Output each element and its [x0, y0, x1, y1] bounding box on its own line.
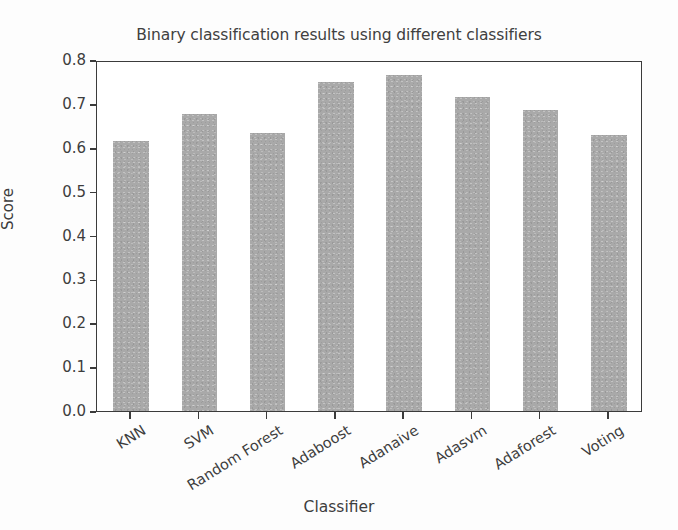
bars-layer — [97, 62, 641, 411]
bar — [318, 82, 353, 411]
x-tick-mark — [129, 412, 131, 419]
y-tick-mark — [90, 148, 96, 150]
y-tick-mark — [90, 367, 96, 369]
y-tick-label: 0.5 — [50, 183, 86, 201]
y-tick-mark — [90, 323, 96, 325]
y-tick-mark — [90, 60, 96, 62]
y-tick-label: 0.6 — [50, 139, 86, 157]
y-tick-label: 0.2 — [50, 314, 86, 332]
y-tick-label: 0.4 — [50, 227, 86, 245]
x-tick-mark — [539, 412, 541, 419]
bar — [523, 110, 558, 411]
y-tick-label: 0.8 — [50, 51, 86, 69]
y-tick-mark — [90, 280, 96, 282]
x-axis-label: Classifier — [0, 498, 678, 516]
bar — [113, 141, 148, 411]
y-tick-label: 0.3 — [50, 270, 86, 288]
x-tick-mark — [402, 412, 404, 419]
y-tick-mark — [90, 236, 96, 238]
x-tick-mark — [607, 412, 609, 419]
bar — [455, 97, 490, 411]
y-axis-label: Score — [0, 0, 17, 429]
x-tick-mark — [471, 412, 473, 419]
plot-area — [96, 61, 642, 412]
x-tick-mark — [266, 412, 268, 419]
x-tick-mark — [334, 412, 336, 419]
bar — [591, 135, 626, 411]
y-tick-label: 0.7 — [50, 95, 86, 113]
bar — [386, 75, 421, 411]
bar — [250, 133, 285, 411]
y-tick-label: 0.0 — [50, 402, 86, 420]
bar — [182, 114, 217, 411]
x-tick-mark — [198, 412, 200, 419]
y-tick-mark — [90, 192, 96, 194]
y-tick-label: 0.1 — [50, 358, 86, 376]
y-tick-mark — [90, 411, 96, 413]
figure-canvas: Binary classification results using diff… — [0, 0, 678, 530]
y-tick-mark — [90, 104, 96, 106]
chart-title: Binary classification results using diff… — [0, 26, 678, 44]
